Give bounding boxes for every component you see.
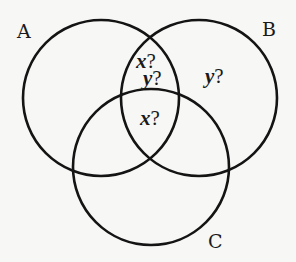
region-label-ab-y: y? bbox=[140, 66, 162, 90]
venn-diagram: A B C x? y? y? x? bbox=[0, 0, 296, 262]
region-label-b-only-y: y? bbox=[202, 64, 224, 88]
question-mark: ? bbox=[151, 106, 160, 130]
set-label-b: B bbox=[262, 18, 276, 40]
region-variable: y bbox=[202, 64, 215, 88]
question-mark: ? bbox=[214, 64, 223, 88]
region-label-abc-x: x? bbox=[139, 106, 160, 130]
set-label-a: A bbox=[16, 20, 31, 42]
circle-b bbox=[121, 20, 277, 176]
region-variable: x bbox=[139, 106, 151, 130]
question-mark: ? bbox=[152, 66, 161, 90]
set-label-c: C bbox=[208, 230, 223, 252]
circle-a bbox=[23, 20, 179, 176]
